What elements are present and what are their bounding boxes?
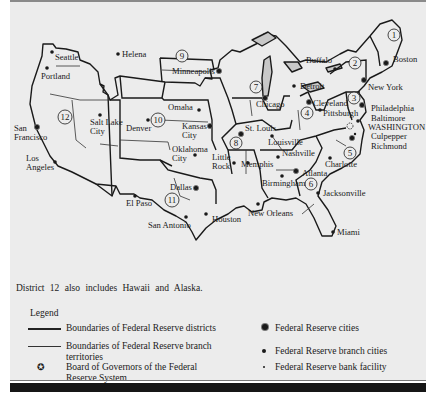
reserve-city-icon <box>361 77 366 82</box>
branch-city-icon <box>197 108 201 112</box>
city-philadelphia: Philadelphia <box>359 102 414 113</box>
svg-text:1: 1 <box>392 30 397 40</box>
branch-city-icon <box>184 215 188 219</box>
city-denver: Denver <box>126 118 151 133</box>
city-los-angeles: LosAngeles <box>26 153 57 172</box>
reserve-city-icon <box>193 185 198 190</box>
reserve-city-icon <box>306 99 311 104</box>
branch-city-icon <box>116 52 120 56</box>
district-1: 1 <box>388 29 400 41</box>
city-label: Dallas <box>170 182 193 192</box>
city-label: Francisco <box>14 132 47 142</box>
branch-city-icon <box>318 108 322 112</box>
city-label: New York <box>368 82 404 92</box>
reserve-city-icon <box>262 324 268 330</box>
city-new-york: New York <box>361 77 403 92</box>
district-12: 12 <box>58 110 72 124</box>
city-san-francisco: SanFrancisco <box>14 123 47 142</box>
branch-city-icon <box>276 155 280 159</box>
svg-text:11: 11 <box>168 195 177 205</box>
us-federal-reserve-map: 1 2 3 4 5 6 7 8 9 10 11 12 SeattlePortla… <box>0 0 439 278</box>
district-6: 6 <box>305 178 317 190</box>
city-label: City <box>172 153 188 163</box>
svg-text:10: 10 <box>154 115 164 125</box>
svg-text:2: 2 <box>353 58 358 68</box>
city-charlotte: Charlotte <box>325 156 357 169</box>
city-label: Seattle <box>55 52 79 62</box>
branch-city-icon <box>232 161 236 165</box>
city-omaha: Omaha <box>168 102 201 112</box>
city-label: Chicago <box>256 99 285 109</box>
city-atlanta: Atlanta <box>293 168 327 178</box>
district-2: 2 <box>349 57 361 69</box>
city-label: Miami <box>337 227 361 237</box>
branch-city-icon <box>146 118 150 122</box>
city-san-antonio: San Antonio <box>148 215 191 230</box>
city-label: Helena <box>122 49 147 59</box>
district-3: 3 <box>348 92 360 104</box>
svg-text:9: 9 <box>180 51 185 61</box>
city-houston: Houston <box>204 212 242 224</box>
city-label: Charlotte <box>325 159 357 169</box>
city-label: Detroit <box>300 81 325 91</box>
city-oklahoma-city: OklahomaCity <box>172 144 208 163</box>
board-city-icon <box>347 123 353 129</box>
district-10: 10 <box>151 113 165 127</box>
branch-city-icon <box>316 191 320 195</box>
svg-text:3: 3 <box>352 93 357 103</box>
city-label: Minneapolis <box>172 66 216 76</box>
reserve-city-icon <box>293 168 298 173</box>
reserve-city-icon <box>359 102 364 107</box>
city-boston: Boston <box>383 54 418 66</box>
branch-city-icon <box>333 67 337 71</box>
district-boundaries <box>96 36 380 204</box>
city-label: Birmingham <box>262 178 306 188</box>
city-portland: Portland <box>41 66 71 81</box>
city-label: Angeles <box>26 162 55 172</box>
svg-text:12: 12 <box>61 112 70 122</box>
city-label: St. Louis <box>245 123 277 133</box>
branch-city-icon <box>256 202 260 206</box>
city-label: Nashville <box>282 148 315 158</box>
city-seattle: Seattle <box>50 50 78 62</box>
us-outline <box>30 20 402 240</box>
reserve-city-icon <box>216 68 221 73</box>
city-label: Pittsburgh <box>323 108 359 118</box>
city-label: Richmond <box>371 141 408 151</box>
thin-line-icon <box>28 346 61 347</box>
facility-city-icon <box>354 133 356 135</box>
svg-text:5: 5 <box>348 148 353 158</box>
branch-city-icon <box>292 84 296 88</box>
svg-text:4: 4 <box>305 108 310 118</box>
city-detroit: Detroit <box>292 81 325 91</box>
city-jacksonville: Jacksonville <box>316 188 365 198</box>
svg-text:8: 8 <box>234 138 239 148</box>
branch-city-icon <box>204 212 208 216</box>
city-label: Cleveland <box>313 98 349 108</box>
reserve-city-icon <box>207 123 212 128</box>
city-label: Louisville <box>268 137 303 147</box>
city-pittsburgh: Pittsburgh <box>318 108 359 118</box>
district-5: 5 <box>344 147 356 159</box>
city-label: Houston <box>212 214 242 224</box>
city-cleveland: Cleveland <box>306 98 348 108</box>
city-label: Omaha <box>168 102 193 112</box>
city-dallas: Dallas <box>170 182 199 192</box>
city-el-paso: El Paso <box>126 194 152 208</box>
city-kansas-city: KansasCity <box>182 121 213 140</box>
legend-title: Legend <box>30 308 59 318</box>
reserve-city-icon <box>383 60 388 65</box>
reserve-city-icon <box>34 124 39 129</box>
district-note: District 12 also includes Hawaii and Ala… <box>16 283 203 293</box>
city-louisville: Louisville <box>268 134 303 147</box>
branch-city-icon <box>356 119 360 123</box>
city-label: Memphis <box>241 159 274 169</box>
city-label: New Orleans <box>248 208 294 218</box>
city-memphis: Memphis <box>241 159 274 169</box>
thick-line-icon <box>28 328 61 330</box>
board-star-icon: ✪ <box>37 362 45 373</box>
city-label: Rock <box>212 161 231 171</box>
city-minneapolis: Minneapolis <box>172 66 222 76</box>
district-9: 9 <box>176 50 188 62</box>
svg-text:6: 6 <box>309 179 314 189</box>
